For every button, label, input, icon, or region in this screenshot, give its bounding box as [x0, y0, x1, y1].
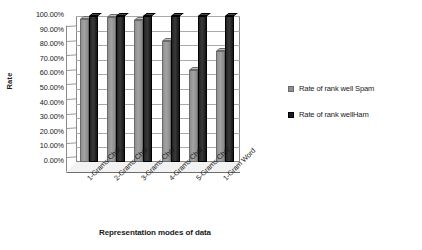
plot-area: [66, 16, 240, 172]
bar-groups: [76, 16, 240, 162]
legend-swatch-icon: [288, 112, 294, 118]
bar-face: [143, 16, 152, 162]
legend-swatch-icon: [288, 86, 294, 92]
bar-ham: [225, 16, 234, 162]
bar-ham: [143, 16, 152, 162]
bar-spam: [107, 17, 116, 162]
bar-top: [116, 13, 129, 16]
bar-top: [225, 13, 238, 16]
bar-top: [143, 13, 156, 16]
bar-group: [134, 16, 154, 162]
y-axis-tick-label: 80.00%: [40, 39, 64, 48]
bar-chart: Rate 100.00%90.00%80.00%70.00%60.00%50.0…: [0, 0, 422, 250]
bar-face: [116, 16, 125, 162]
legend-label: Rate of rank well Spam: [299, 84, 374, 93]
bar-face: [89, 16, 98, 162]
bar-group: [189, 16, 209, 162]
y-axis-tick-labels: 100.00%90.00%80.00%70.00%60.00%50.00%40.…: [18, 14, 64, 172]
x-axis-title: Representation modes of data: [40, 228, 270, 237]
bar-group: [216, 16, 236, 162]
y-axis-tick-label: 0.00%: [44, 156, 64, 165]
x-axis-tick-labels: 1-Grams Char2-Grams Char3-Grams Char4-Gr…: [66, 176, 240, 222]
y-axis-title: Rate: [5, 76, 14, 90]
y-axis-tick-label: 90.00%: [40, 24, 64, 33]
y-axis-tick-label: 40.00%: [40, 97, 64, 106]
y-axis-tick-label: 20.00%: [40, 126, 64, 135]
y-axis-tick-label: 10.00%: [40, 141, 64, 150]
bar-ham: [198, 16, 207, 162]
bar-face: [225, 16, 234, 162]
y-axis-tick-label: 60.00%: [40, 68, 64, 77]
bar-top: [171, 13, 184, 16]
bar-group: [80, 16, 100, 162]
legend-label: Rate of rank wellHam: [299, 110, 369, 119]
bar-face: [134, 20, 143, 162]
chart-legend: Rate of rank well SpamRate of rank wellH…: [288, 84, 420, 136]
bar-spam: [134, 20, 143, 162]
bar-ham: [171, 16, 180, 162]
bar-group: [162, 16, 182, 162]
bar-face: [171, 16, 180, 162]
bar-ham: [89, 16, 98, 162]
bar-face: [80, 19, 89, 162]
y-axis-tick-label: 70.00%: [40, 53, 64, 62]
bar-face: [198, 16, 207, 162]
legend-item: Rate of rank wellHam: [288, 110, 420, 119]
bar-top: [198, 13, 211, 16]
y-axis-tick-label: 30.00%: [40, 112, 64, 121]
bar-top: [89, 13, 102, 16]
y-axis-tick-label: 100.00%: [36, 10, 64, 19]
bar-face: [107, 17, 116, 162]
bar-spam: [80, 19, 89, 162]
legend-item: Rate of rank well Spam: [288, 84, 420, 93]
bar-ham: [116, 16, 125, 162]
bar-group: [107, 16, 127, 162]
y-axis-tick-label: 50.00%: [40, 83, 64, 92]
